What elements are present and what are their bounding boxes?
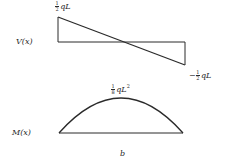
moment-peak-fraction: 1 8 xyxy=(111,84,115,95)
moment-peak-label: 1 8 qL2 xyxy=(111,84,130,95)
shear-min-label: − 1 2 qL xyxy=(189,70,211,81)
figure-caption: b xyxy=(120,150,125,158)
moment-parabola xyxy=(59,98,183,133)
shear-diagram xyxy=(58,17,185,65)
shear-axis-label: V(x) xyxy=(16,38,33,46)
shear-min-fraction: 1 2 xyxy=(196,70,200,81)
shear-max-label: 1 2 qL xyxy=(55,1,71,12)
shear-max-fraction: 1 2 xyxy=(55,1,59,12)
moment-diagram xyxy=(59,98,183,133)
diagram-canvas xyxy=(0,0,236,166)
moment-axis-label: M(x) xyxy=(12,129,31,137)
shear-sloped-line xyxy=(58,17,185,65)
